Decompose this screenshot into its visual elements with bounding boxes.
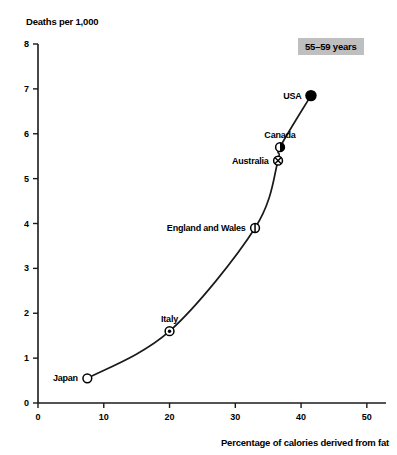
y-tick-label: 1: [24, 353, 29, 363]
data-point-italy: [165, 327, 174, 336]
x-tick-label: 20: [165, 412, 175, 422]
x-tick-label: 0: [35, 412, 40, 422]
data-point-label: Italy: [161, 314, 178, 324]
chart-container: Deaths per 1,000 55–59 years 012345678 0…: [0, 0, 397, 455]
data-point-label: Canada: [264, 130, 295, 140]
data-point-label: Australia: [232, 156, 269, 166]
data-point-australia: [274, 156, 283, 165]
data-point-label: USA: [283, 91, 301, 101]
y-tick-label: 6: [24, 129, 29, 139]
x-tick-label: 40: [296, 412, 306, 422]
y-tick-label: 3: [24, 263, 29, 273]
y-tick-label: 5: [24, 174, 29, 184]
x-tick-label: 10: [99, 412, 109, 422]
data-point-label: England and Wales: [167, 223, 246, 233]
y-tick-label: 0: [24, 398, 29, 408]
data-point-england-and-wales: [251, 224, 260, 233]
y-tick-label: 7: [24, 84, 29, 94]
y-tick-label: 8: [24, 39, 29, 49]
x-tick-label: 30: [230, 412, 240, 422]
data-point-label: Japan: [53, 373, 78, 383]
y-tick-label: 4: [24, 219, 29, 229]
y-tick-label: 2: [24, 308, 29, 318]
data-point-usa: [305, 90, 316, 101]
data-point-canada: [276, 143, 285, 152]
data-point-japan: [83, 374, 92, 383]
x-tick-label: 50: [362, 412, 372, 422]
x-axis-title: Percentage of calories derived from fat: [221, 437, 389, 448]
